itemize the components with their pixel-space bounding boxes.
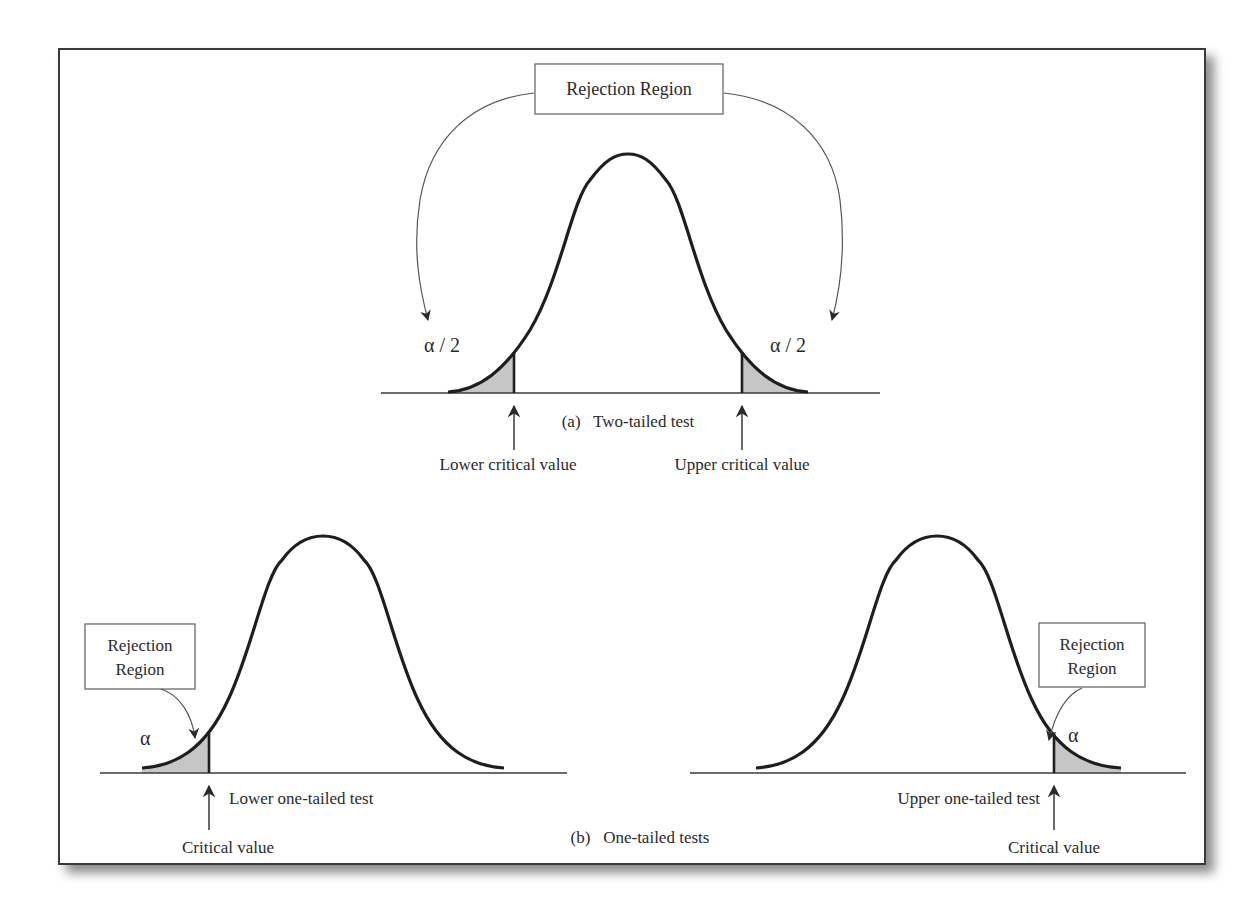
critical-value-label: Critical value (1008, 838, 1100, 857)
lower-one-tailed-label: Lower one-tailed test (229, 789, 374, 808)
rejection-region-label-line2: Region (115, 660, 165, 679)
left-pointer-arrow (417, 93, 534, 320)
normal-curve (142, 536, 504, 768)
rejection-region-label-line1: Rejection (1059, 635, 1125, 654)
upper-critical-value-label: Upper critical value (675, 455, 810, 474)
hypothesis-test-diagram: Rejection Region α / 2 α / 2 (a) Two-tai… (0, 0, 1260, 917)
lower-one-tailed-panel: Rejection Region α Lower one-tailed test… (85, 536, 567, 857)
left-alpha-half-label: α / 2 (424, 334, 460, 356)
rejection-pointer-arrow (161, 689, 195, 738)
left-rejection-area (448, 354, 514, 393)
right-rejection-area (742, 354, 808, 393)
critical-value-label: Critical value (182, 838, 274, 857)
rejection-region-label: Rejection Region (566, 79, 691, 99)
upper-one-tailed-panel: Rejection Region α Upper one-tailed test… (690, 536, 1186, 857)
alpha-label: α (140, 727, 151, 749)
rejection-region-box (85, 624, 195, 689)
alpha-label: α (1068, 724, 1079, 746)
right-alpha-half-label: α / 2 (770, 334, 806, 356)
right-pointer-arrow (724, 93, 842, 320)
rejection-region-label-line2: Region (1067, 659, 1117, 678)
one-tailed-caption: (b) One-tailed tests (571, 828, 710, 847)
two-tailed-test-panel: Rejection Region α / 2 α / 2 (a) Two-tai… (381, 64, 880, 474)
two-tailed-caption: (a) Two-tailed test (562, 412, 695, 431)
upper-one-tailed-label: Upper one-tailed test (897, 789, 1040, 808)
lower-critical-value-label: Lower critical value (440, 455, 577, 474)
normal-curve (448, 154, 808, 392)
rejection-region-label-line1: Rejection (107, 636, 173, 655)
